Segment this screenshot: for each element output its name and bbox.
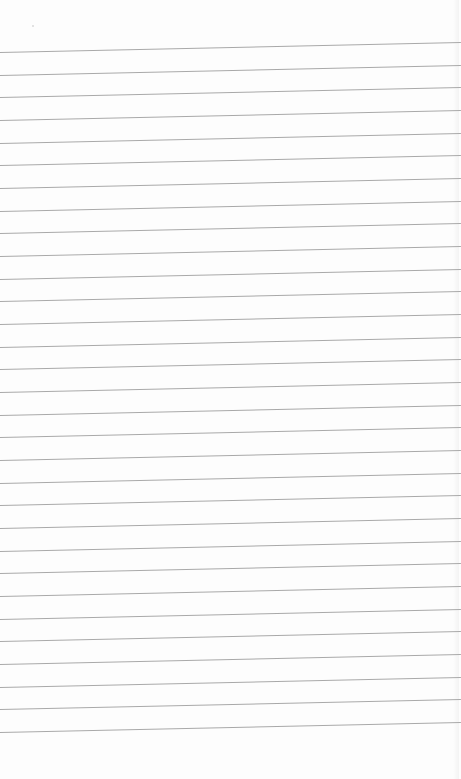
- ruled-line: [0, 155, 461, 166]
- paper-right-edge-shadow: [453, 0, 459, 779]
- ruled-line: [0, 654, 461, 665]
- ruled-line: [0, 382, 461, 393]
- ruled-line: [0, 518, 461, 529]
- ruled-line: [0, 133, 461, 144]
- ruled-line: [0, 291, 461, 302]
- ruled-line: [0, 269, 461, 280]
- ruled-line: [0, 541, 461, 552]
- ruled-line: [0, 473, 461, 484]
- ruled-line: [0, 563, 461, 574]
- ruled-line: [0, 314, 461, 325]
- ruled-line: [0, 223, 461, 234]
- paper-speck: [32, 25, 34, 27]
- ruled-line: [0, 427, 461, 438]
- ruled-line: [0, 65, 461, 76]
- ruled-line: [0, 722, 461, 733]
- ruled-line: [0, 405, 461, 416]
- ruled-line: [0, 110, 461, 121]
- ruled-line: [0, 450, 461, 461]
- ruled-line: [0, 609, 461, 620]
- ruled-line: [0, 246, 461, 257]
- ruled-line: [0, 337, 461, 348]
- ruled-line: [0, 359, 461, 370]
- ruled-line: [0, 201, 461, 212]
- ruled-line: [0, 42, 461, 53]
- ruled-line: [0, 586, 461, 597]
- ruled-line: [0, 677, 461, 688]
- ruled-line: [0, 87, 461, 98]
- ruled-line: [0, 178, 461, 189]
- ruled-line: [0, 699, 461, 710]
- ruled-line: [0, 495, 461, 506]
- ruled-line: [0, 631, 461, 642]
